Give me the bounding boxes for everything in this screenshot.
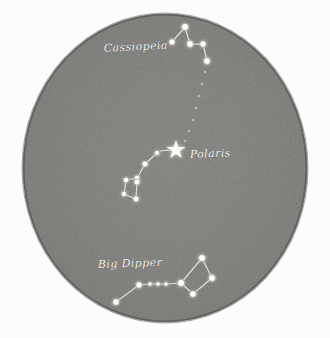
- star-big-dipper-7: [209, 275, 216, 282]
- star-little-dipper-3: [134, 179, 140, 185]
- pointer-trail-dot-1: [201, 83, 204, 86]
- pointer-trail-dot-2: [198, 95, 201, 98]
- star-cassiopeia-4: [204, 58, 211, 65]
- star-big-dipper-0: [113, 299, 120, 306]
- pointer-trail-dot-3: [195, 107, 198, 110]
- pointer-trail-dot-5: [188, 130, 191, 133]
- star-big-dipper-4: [164, 282, 168, 286]
- star-big-dipper-5: [177, 279, 184, 286]
- star-big-dipper-6: [199, 255, 206, 262]
- star-little-dipper-1: [142, 161, 148, 167]
- star-chart-figure: CassiopeiaPolarisBig Dipper: [0, 0, 330, 338]
- star-big-dipper-8: [190, 291, 197, 298]
- sky-disc-canvas: CassiopeiaPolarisBig Dipper: [0, 0, 330, 338]
- star-cassiopeia-0: [169, 39, 175, 45]
- pointer-trail-dot-4: [192, 119, 195, 122]
- pointer-trail-dot-6: [184, 140, 187, 143]
- star-cassiopeia-1: [181, 23, 188, 30]
- star-big-dipper-1: [136, 282, 142, 288]
- star-little-dipper-0: [154, 150, 159, 155]
- star-cassiopeia-3: [200, 41, 206, 47]
- star-cassiopeia-2: [187, 41, 194, 48]
- star-big-dipper-2: [148, 282, 152, 286]
- constellation-label-big-dipper: Big Dipper: [97, 256, 163, 271]
- pointer-trail-dot-0: [204, 71, 207, 74]
- star-little-dipper-5: [121, 191, 126, 196]
- constellation-label-polaris: Polaris: [189, 147, 231, 161]
- star-big-dipper-3: [156, 282, 160, 286]
- star-little-dipper-4: [123, 177, 129, 183]
- star-little-dipper-6: [133, 196, 139, 202]
